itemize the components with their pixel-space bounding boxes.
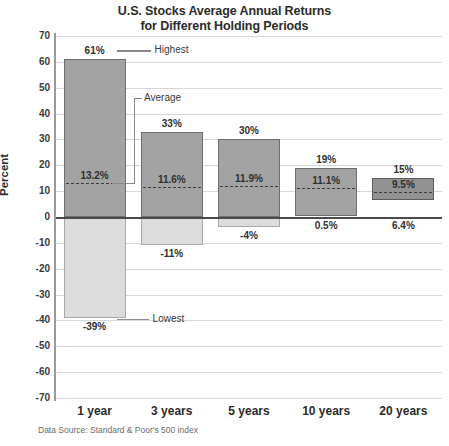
y-axis-tick: 70 — [10, 31, 50, 41]
y-axis-tick: 50 — [10, 83, 50, 93]
y-axis-tick: 10 — [10, 186, 50, 196]
x-axis-tick: 3 years — [133, 404, 210, 418]
y-axis-tick: 40 — [10, 109, 50, 119]
bar-negative-segment[interactable] — [141, 217, 203, 245]
x-axis-tick: 1 year — [56, 404, 133, 418]
average-marker — [297, 188, 355, 189]
bar-negative-segment[interactable] — [64, 217, 126, 318]
y-axis-tick: 20 — [10, 160, 50, 170]
y-axis-tick: -60 — [10, 367, 50, 377]
y-axis-tick: 30 — [10, 134, 50, 144]
x-axis-tick: 20 years — [365, 404, 442, 418]
low-value-label: -39% — [64, 322, 126, 332]
average-value-label: 11.9% — [218, 174, 280, 184]
highest-leader-line — [117, 50, 151, 51]
y-axis-tick: -30 — [10, 290, 50, 300]
chart-title-line1: U.S. Stocks Average Annual Returns — [0, 4, 449, 19]
low-value-label: -4% — [218, 231, 280, 241]
average-marker — [220, 186, 278, 187]
chart-title-line2: for Different Holding Periods — [0, 19, 449, 34]
high-value-label: 15% — [372, 165, 434, 175]
gridline — [56, 398, 442, 399]
chart-title: U.S. Stocks Average Annual Returns for D… — [0, 4, 449, 34]
source-note: Data Source: Standard & Poor's 500 index — [38, 425, 198, 435]
y-axis-tick: 0 — [10, 212, 50, 222]
average-leader-vertical — [134, 98, 135, 183]
y-axis-tick: 60 — [10, 57, 50, 67]
average-marker — [143, 187, 201, 188]
y-axis-tick: -50 — [10, 341, 50, 351]
average-value-label: 11.1% — [295, 176, 357, 186]
high-value-label: 30% — [218, 126, 280, 136]
high-value-label: 33% — [141, 119, 203, 129]
x-axis-tick: 10 years — [288, 404, 365, 418]
average-value-label: 9.5% — [372, 180, 434, 190]
low-value-label: 0.5% — [295, 221, 357, 231]
low-value-label: -11% — [141, 249, 203, 259]
lowest-leader-line — [117, 319, 149, 320]
highest-annotation-label: Highest — [155, 45, 189, 55]
y-axis-tick: -20 — [10, 264, 50, 274]
average-value-label: 11.6% — [141, 175, 203, 185]
low-value-label: 6.4% — [372, 221, 434, 231]
bar-positive-segment[interactable] — [64, 59, 126, 217]
average-annotation-label: Average — [144, 93, 181, 103]
chart-container: U.S. Stocks Average Annual Returns for D… — [0, 0, 449, 446]
high-value-label: 19% — [295, 155, 357, 165]
average-value-label: 13.2% — [64, 171, 126, 181]
plot-area: 13.2%61%-39%11.6%33%-11%11.9%30%-4%11.1%… — [56, 36, 442, 398]
y-axis-tick: -40 — [10, 315, 50, 325]
average-leader-horizontal — [112, 183, 135, 184]
zero-line — [56, 217, 442, 219]
average-marker — [374, 192, 432, 193]
y-axis-ticks: 706050403020100-10-20-30-40-50-60-70 — [6, 36, 50, 398]
y-axis-label: Percent — [0, 154, 10, 196]
lowest-annotation-label: Lowest — [153, 314, 185, 324]
y-axis-tick: -10 — [10, 238, 50, 248]
y-axis-tick: -70 — [10, 393, 50, 403]
x-axis-tick: 5 years — [210, 404, 287, 418]
bar-negative-segment[interactable] — [218, 217, 280, 227]
